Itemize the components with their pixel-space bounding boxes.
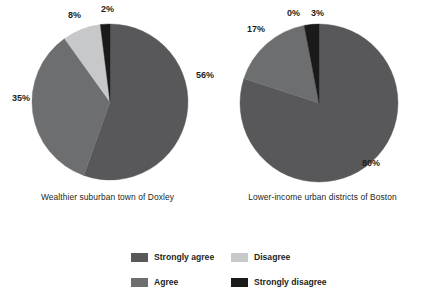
pie-slices-doxley — [0, 0, 215, 215]
legend-swatch-icon-strongly-agree — [131, 253, 148, 262]
pie-chart-boston: 80% 17% 0% 3% Lower-income urban distric… — [215, 0, 430, 215]
legend-label-strongly-disagree: Strongly disagree — [254, 278, 327, 287]
pie-label-boston-strongly-agree: 80% — [362, 159, 380, 168]
pie-label-doxley-strongly-disagree: 2% — [101, 5, 114, 14]
legend-label-agree: Agree — [154, 278, 178, 287]
legend-item-agree: Agree — [131, 278, 231, 287]
legend-item-strongly-agree: Strongly agree — [131, 253, 231, 262]
pie-label-doxley-agree: 35% — [12, 94, 30, 103]
legend-swatch-icon-agree — [131, 278, 148, 287]
legend-item-disagree: Disagree — [231, 253, 341, 262]
legend-swatch-icon-strongly-disagree — [231, 278, 248, 287]
pie-label-boston-agree: 17% — [247, 25, 265, 34]
legend-item-strongly-disagree: Strongly disagree — [231, 278, 341, 287]
pie-label-doxley-disagree: 8% — [68, 11, 81, 20]
pie-caption-doxley: Wealthier suburban town of Doxley — [0, 192, 215, 202]
legend-swatch-icon-disagree — [231, 253, 248, 262]
pie-label-boston-strongly-disagree: 3% — [311, 9, 324, 18]
chart-legend: Strongly agree Disagree Agree Strongly d… — [131, 247, 341, 293]
pie-chart-figure: 56% 35% 8% 2% Wealthier suburban town of… — [0, 0, 430, 302]
pie-label-doxley-strongly-agree: 56% — [196, 71, 214, 80]
legend-label-strongly-agree: Strongly agree — [154, 253, 214, 262]
pie-caption-boston: Lower-income urban districts of Boston — [215, 192, 430, 202]
pie-label-boston-disagree: 0% — [287, 9, 300, 18]
pie-chart-doxley: 56% 35% 8% 2% Wealthier suburban town of… — [0, 0, 215, 215]
legend-label-disagree: Disagree — [254, 253, 290, 262]
